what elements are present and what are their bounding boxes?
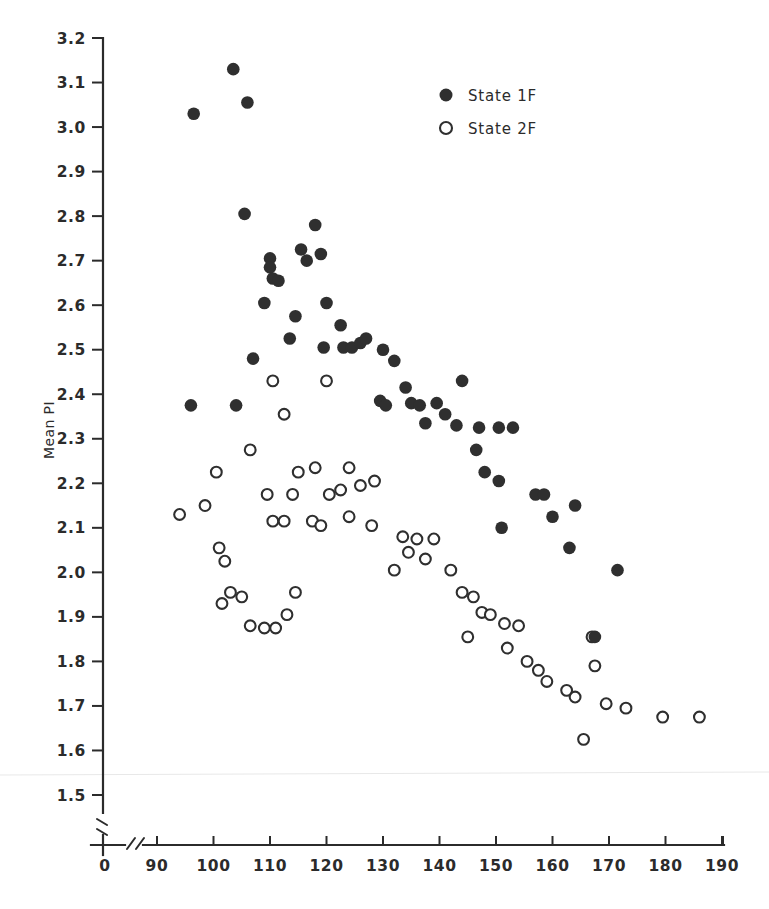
data-point bbox=[399, 381, 412, 394]
data-point bbox=[589, 631, 602, 644]
y-tick-label: 2.6 bbox=[57, 297, 86, 315]
data-point bbox=[245, 445, 256, 456]
data-point bbox=[225, 587, 236, 598]
y-tick-label: 1.5 bbox=[57, 787, 86, 805]
data-point bbox=[428, 534, 439, 545]
data-point bbox=[589, 660, 600, 671]
data-point bbox=[241, 96, 254, 109]
x-tick-label: 120 bbox=[309, 857, 343, 875]
data-point bbox=[270, 623, 281, 634]
data-point bbox=[185, 399, 198, 412]
data-point bbox=[344, 462, 355, 473]
data-point bbox=[507, 421, 520, 434]
data-point bbox=[420, 554, 431, 565]
x-tick-label: 90 bbox=[146, 857, 169, 875]
data-point bbox=[538, 488, 551, 501]
data-point bbox=[219, 556, 230, 567]
data-point bbox=[344, 511, 355, 522]
x-tick-label: 110 bbox=[253, 857, 287, 875]
data-point bbox=[541, 676, 552, 687]
y-tick-label: 2.9 bbox=[57, 163, 86, 181]
data-point bbox=[295, 243, 308, 256]
x-tick-label: 160 bbox=[535, 857, 569, 875]
data-point bbox=[300, 254, 313, 267]
y-tick-label: 1.9 bbox=[57, 608, 86, 626]
data-point bbox=[214, 542, 225, 553]
data-point bbox=[462, 632, 473, 643]
data-point bbox=[569, 499, 582, 512]
data-point bbox=[289, 310, 302, 323]
data-point bbox=[657, 712, 668, 723]
data-point bbox=[495, 522, 508, 535]
data-point bbox=[317, 341, 330, 354]
x-tick-label: 180 bbox=[648, 857, 682, 875]
data-point bbox=[174, 509, 185, 520]
data-point bbox=[238, 208, 251, 221]
data-point bbox=[621, 703, 632, 714]
y-tick-label: 2.5 bbox=[57, 341, 86, 359]
y-tick-label: 1.8 bbox=[57, 653, 86, 671]
data-point bbox=[389, 565, 400, 576]
data-point bbox=[522, 656, 533, 667]
data-point bbox=[601, 698, 612, 709]
x-tick-label: 150 bbox=[479, 857, 513, 875]
data-point bbox=[445, 565, 456, 576]
data-point bbox=[282, 609, 293, 620]
data-point bbox=[217, 598, 228, 609]
data-point bbox=[493, 421, 506, 434]
data-point bbox=[262, 489, 273, 500]
data-point bbox=[439, 408, 452, 421]
data-point bbox=[369, 476, 380, 487]
data-point bbox=[533, 665, 544, 676]
data-point bbox=[321, 375, 332, 386]
data-point bbox=[335, 485, 346, 496]
data-point bbox=[380, 399, 393, 412]
data-point bbox=[187, 107, 200, 120]
data-point bbox=[457, 587, 468, 598]
y-tick-label: 2.1 bbox=[57, 519, 86, 537]
y-tick-label: 2.0 bbox=[57, 564, 86, 582]
data-point bbox=[485, 609, 496, 620]
data-point bbox=[450, 419, 463, 432]
scan-artifact-line bbox=[0, 772, 769, 775]
data-point bbox=[468, 591, 479, 602]
series-state-2f-points bbox=[174, 375, 705, 744]
data-point bbox=[258, 297, 271, 310]
x-tick-label: 100 bbox=[196, 857, 230, 875]
legend-marker-filled-circle bbox=[440, 89, 453, 102]
data-point bbox=[563, 542, 576, 555]
data-point bbox=[264, 261, 277, 274]
y-tick-label: 2.8 bbox=[57, 208, 86, 226]
data-point bbox=[430, 397, 443, 410]
data-point bbox=[546, 510, 559, 523]
data-point bbox=[245, 620, 256, 631]
scatter-plot-figure: 1.51.61.71.81.92.02.12.22.32.42.52.62.72… bbox=[0, 0, 769, 909]
plot-canvas: 1.51.61.71.81.92.02.12.22.32.42.52.62.72… bbox=[0, 0, 769, 909]
data-point bbox=[315, 520, 326, 531]
data-point bbox=[267, 375, 278, 386]
y-tick-label: 3.0 bbox=[57, 119, 86, 137]
legend-marker-open-circle bbox=[440, 122, 452, 134]
data-point bbox=[513, 620, 524, 631]
x-axis-origin-label: 0 bbox=[99, 857, 110, 875]
data-point bbox=[570, 692, 581, 703]
data-point bbox=[578, 734, 589, 745]
data-point bbox=[283, 332, 296, 345]
data-point bbox=[290, 587, 301, 598]
data-point bbox=[413, 399, 426, 412]
data-point bbox=[320, 297, 333, 310]
x-tick-label: 190 bbox=[705, 857, 739, 875]
data-point bbox=[315, 248, 328, 261]
data-point bbox=[309, 219, 322, 232]
data-point bbox=[694, 712, 705, 723]
data-point bbox=[412, 534, 423, 545]
axis-layer bbox=[91, 38, 724, 855]
data-point bbox=[247, 352, 260, 365]
data-point bbox=[499, 618, 510, 629]
data-point bbox=[279, 409, 290, 420]
data-point bbox=[324, 489, 335, 500]
data-point bbox=[478, 466, 491, 479]
data-point bbox=[502, 643, 513, 654]
y-tick-label-layer: 1.51.61.71.81.92.02.12.22.32.42.52.62.72… bbox=[57, 30, 86, 805]
x-tick-label: 130 bbox=[366, 857, 400, 875]
